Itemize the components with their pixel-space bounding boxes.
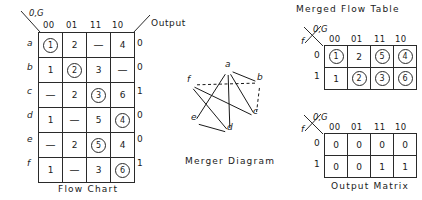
output-matrix-row: 0011 [325, 156, 417, 178]
output-matrix-col-header-3: 10 [395, 122, 406, 132]
merger-node-f: f [187, 74, 190, 84]
output-matrix-col-header-1: 01 [351, 122, 362, 132]
merger-node-b: b [257, 72, 263, 82]
output-matrix-cell-1-1: 0 [348, 156, 371, 178]
merged-flow-table-cell-0-2: 5 [371, 46, 394, 68]
output-matrix-body: 00000011 [325, 134, 417, 178]
merged-flow-table-col-header-2: 11 [374, 34, 385, 44]
output-matrix-row: 0000 [325, 134, 417, 156]
merger-node-d: d [227, 122, 233, 132]
merged-flow-table-cell-0-1: 2 [348, 46, 371, 68]
merger-diagram-caption: Merger Diagram [185, 156, 275, 166]
merged-flow-table-cell-1-1: 2 [348, 68, 371, 90]
merged-flow-table-title: Merged Flow Table [296, 4, 400, 14]
circled-state-marker: 6 [398, 71, 413, 86]
output-matrix-col-header-2: 11 [374, 122, 385, 132]
merger-edge-a-b [233, 72, 256, 81]
output-matrix-cell-1-3: 1 [394, 156, 417, 178]
merger-edge-a-e [197, 74, 226, 119]
output-matrix-cell-1-2: 1 [371, 156, 394, 178]
merged-flow-table-cell-1-3: 6 [394, 68, 417, 90]
merged-flow-table-cell-1-0: 1 [325, 68, 348, 90]
circled-state-marker: 2 [352, 71, 367, 86]
circled-state-marker: 4 [398, 49, 413, 64]
output-matrix-cell-0-1: 0 [348, 134, 371, 156]
output-matrix-cell-0-3: 0 [394, 134, 417, 156]
merged-flow-table-cell-1-2: 3 [371, 68, 394, 90]
merged-flow-table-col-header-0: 00 [329, 34, 340, 44]
merged-flow-table-corner-label: 0,G [313, 24, 328, 34]
output-matrix-caption: Output Matrix [331, 181, 409, 191]
merged-flow-table-row: 1254 [325, 46, 417, 68]
output-matrix-table: 00000011 [324, 133, 417, 178]
merged-flow-table-row: 1236 [325, 68, 417, 90]
merged-flow-table-row-label-1: 1 [314, 71, 320, 81]
output-matrix-row-label-1: 1 [314, 159, 320, 169]
output-matrix-corner-label: 0,G [313, 112, 328, 122]
output-matrix-cell-0-0: 0 [325, 134, 348, 156]
merged-flow-table-corner-row-label: f [301, 36, 304, 46]
circled-state-marker: 3 [375, 71, 390, 86]
merged-flow-table-body: 12541236 [325, 46, 417, 90]
circled-state-marker: 1 [329, 49, 344, 64]
output-matrix-cell-0-2: 0 [371, 134, 394, 156]
merged-flow-table-cell-0-3: 4 [394, 46, 417, 68]
circled-state-marker: 5 [375, 49, 390, 64]
merged-flow-table-cell-0-0: 1 [325, 46, 348, 68]
merger-edge-d-e [199, 124, 225, 131]
merged-flow-table: 12541236 [324, 45, 417, 90]
output-matrix-corner-row-label: f [301, 124, 304, 134]
merger-edge-b-f [195, 83, 255, 85]
merger-node-c: c [253, 106, 258, 116]
merged-flow-table-col-header-1: 01 [351, 34, 362, 44]
output-matrix-cell-1-0: 0 [325, 156, 348, 178]
merger-edge-a-c [231, 74, 254, 112]
output-matrix-row-label-0: 0 [314, 138, 320, 148]
merger-node-e: e [191, 112, 197, 122]
figure-canvas: 0,G Output 00 01 11 10 a b c d e f 12—41… [0, 0, 422, 200]
merged-flow-table-col-header-3: 10 [395, 34, 406, 44]
merger-edge-a-d [228, 75, 230, 128]
merger-node-a: a [225, 59, 231, 69]
merged-flow-table-row-label-0: 0 [314, 50, 320, 60]
output-matrix-col-header-0: 00 [329, 122, 340, 132]
